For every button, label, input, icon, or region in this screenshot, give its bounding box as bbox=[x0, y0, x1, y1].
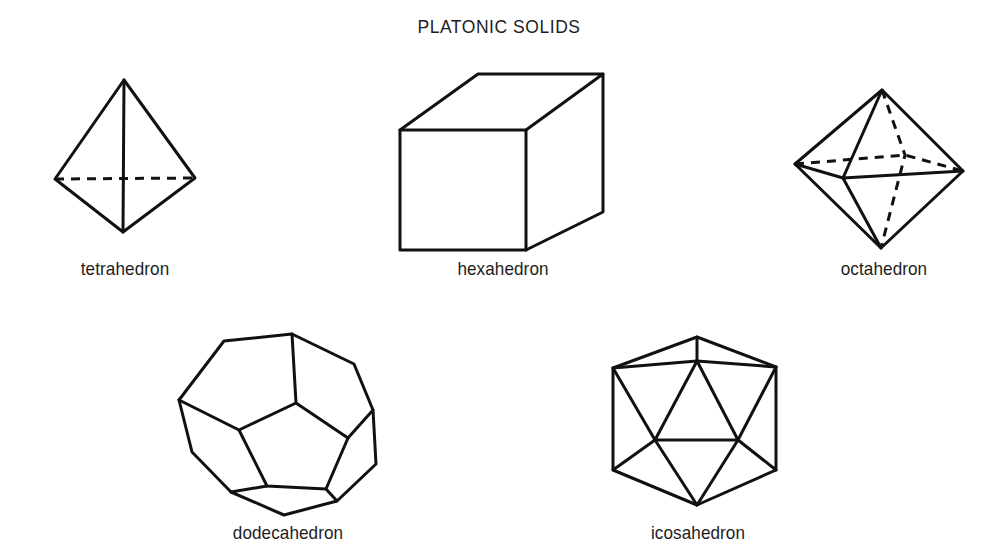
dodecahedron-label: dodecahedron bbox=[180, 522, 396, 544]
tetrahedron-front-edge bbox=[123, 80, 124, 232]
solid-hexahedron: hexahedron bbox=[378, 52, 628, 292]
tetrahedron-hidden-edge bbox=[55, 178, 195, 179]
icosahedron-label: icosahedron bbox=[603, 522, 794, 544]
octahedron-label: octahedron bbox=[783, 258, 985, 280]
platonic-solids-figure: PLATONIC SOLIDS tetrahedron hexahedron bbox=[0, 0, 998, 559]
tetrahedron-label: tetrahedron bbox=[25, 258, 225, 280]
octahedron-drawing bbox=[772, 68, 996, 258]
page-title: PLATONIC SOLIDS bbox=[40, 16, 958, 38]
solid-icosahedron: icosahedron bbox=[592, 326, 804, 552]
octahedron-face-fill bbox=[795, 90, 963, 248]
icosahedron-drawing bbox=[592, 326, 804, 521]
solid-octahedron: octahedron bbox=[772, 68, 996, 292]
dodecahedron-drawing bbox=[168, 326, 408, 521]
tetrahedron-drawing bbox=[14, 62, 236, 252]
solid-dodecahedron: dodecahedron bbox=[168, 326, 408, 552]
hexahedron-drawing bbox=[378, 52, 628, 252]
hexahedron-face-fill bbox=[400, 74, 603, 250]
solid-tetrahedron: tetrahedron bbox=[14, 62, 236, 292]
hexahedron-label: hexahedron bbox=[391, 258, 616, 280]
